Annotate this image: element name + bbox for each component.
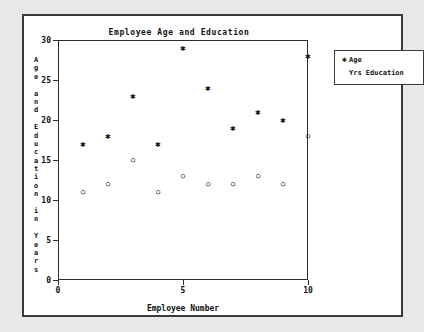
y-axis-label-char: t [30,165,42,173]
y-axis-label-char [30,81,42,89]
y-tick [53,80,58,81]
y-tick-label: 20 [41,116,51,125]
y-axis-label: Age and Education in Years [30,56,42,274]
y-axis-label-char: e [30,73,42,81]
y-tick-label: 5 [46,236,51,245]
y-axis-label-char: i [30,207,42,215]
data-point-age: ✱ [204,84,212,92]
x-tick-label: 10 [303,286,313,295]
y-axis-label-char [30,115,42,123]
y-axis-label-char: a [30,249,42,257]
chart-title: Employee Age and Education [24,28,334,37]
data-point-education: ○ [104,180,112,188]
data-point-education: ○ [79,188,87,196]
y-axis-label-char [30,199,42,207]
data-point-age: ✱ [79,140,87,148]
x-tick-label: 0 [56,286,61,295]
data-point-education: ○ [204,180,212,188]
plot-top-border [58,40,308,41]
legend-label-education: Yrs Education [349,69,404,77]
y-tick [53,120,58,121]
data-point-age: ✱ [179,44,187,52]
data-point-age: ✱ [254,108,262,116]
y-axis-label-char: Y [30,232,42,240]
plot-right-border [307,40,308,280]
y-axis-label-char: A [30,56,42,64]
x-tick [183,280,184,285]
x-tick-label: 5 [181,286,186,295]
legend-entry-age: ✱ Age [340,56,362,64]
data-point-education: ○ [154,188,162,196]
data-point-age: ✱ [129,92,137,100]
y-axis-label-char: d [30,132,42,140]
data-point-age: ✱ [279,116,287,124]
y-axis-line [58,40,59,280]
data-point-age: ✱ [229,124,237,132]
y-tick-label: 10 [41,196,51,205]
y-axis-label-char: c [30,148,42,156]
y-tick [53,200,58,201]
data-point-age: ✱ [104,132,112,140]
legend-label-age: Age [349,56,362,64]
chart-legend: ✱ Age Yrs Education [334,50,424,85]
y-axis-label-char: E [30,123,42,131]
y-tick-label: 15 [41,156,51,165]
x-tick [58,280,59,285]
y-axis-label-char: d [30,106,42,114]
y-tick-label: 25 [41,76,51,85]
y-axis-label-char: a [30,157,42,165]
y-axis-label-char: i [30,173,42,181]
y-axis-label-char: r [30,257,42,265]
x-tick [308,280,309,285]
y-axis-label-char [30,224,42,232]
data-point-education: ○ [179,172,187,180]
x-axis-label: Employee Number [58,304,308,313]
data-point-education: ○ [279,180,287,188]
data-point-education: ○ [254,172,262,180]
y-tick [53,160,58,161]
y-axis-label-char: o [30,182,42,190]
data-point-age: ✱ [304,52,312,60]
y-axis-label-char: a [30,90,42,98]
y-tick [53,240,58,241]
y-axis-label-char: e [30,241,42,249]
data-point-education: ○ [304,132,312,140]
data-point-age: ✱ [154,140,162,148]
y-axis-label-char: u [30,140,42,148]
legend-marker-age: ✱ [340,56,349,64]
y-axis-label-char: g [30,64,42,72]
chart-panel: Employee Age and Education Age and Educa… [22,14,403,317]
y-axis-label-char: s [30,266,42,274]
data-point-education: ○ [129,156,137,164]
y-tick [53,40,58,41]
plot-area: 051015202530 0510 ✱✱✱✱✱✱✱✱✱✱○○○○○○○○○○ [58,40,308,280]
y-axis-label-char: n [30,98,42,106]
y-tick-label: 0 [46,276,51,285]
y-axis-label-char: n [30,190,42,198]
legend-entry-education: Yrs Education [340,69,404,77]
y-tick-label: 30 [41,36,51,45]
y-axis-label-char: n [30,215,42,223]
data-point-education: ○ [229,180,237,188]
